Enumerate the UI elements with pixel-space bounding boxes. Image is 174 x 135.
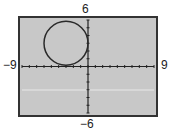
calculator-graph	[0, 0, 174, 135]
